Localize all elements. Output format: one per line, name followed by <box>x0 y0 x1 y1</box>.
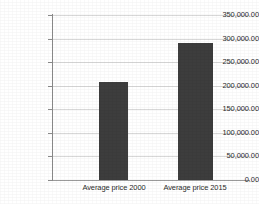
y-tick-mark-300000 <box>48 39 52 40</box>
bar-average-price-2000 <box>99 82 128 180</box>
category-label-average-price-2015: Average price 2015 <box>143 183 247 192</box>
y-tick-mark-250000 <box>48 62 52 63</box>
bar-chart: 350,000.00 300,000.00 250,000.00 200,000… <box>0 0 259 204</box>
y-tick-mark-0 <box>48 180 52 181</box>
y-tick-mark-350000 <box>48 15 52 16</box>
y-tick-mark-200000 <box>48 86 52 87</box>
y-tick-label-150000: 150,000.00 <box>211 105 259 113</box>
y-tick-label-50000: 50,000.00 <box>211 152 259 160</box>
y-axis-line <box>52 14 53 181</box>
y-tick-label-350000: 350,000.00 <box>211 11 259 19</box>
y-tick-label-300000: 300,000.00 <box>211 35 259 43</box>
bar-average-price-2015 <box>178 43 213 180</box>
y-tick-label-200000: 200,000.00 <box>211 82 259 90</box>
y-tick-label-250000: 250,000.00 <box>211 58 259 66</box>
y-tick-mark-50000 <box>48 156 52 157</box>
y-tick-mark-150000 <box>48 109 52 110</box>
y-tick-mark-100000 <box>48 133 52 134</box>
y-tick-label-100000: 100,000.00 <box>211 129 259 137</box>
